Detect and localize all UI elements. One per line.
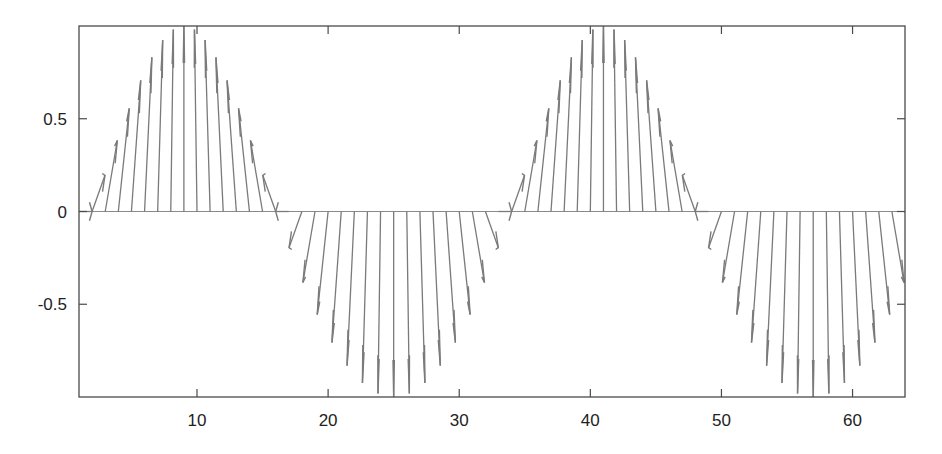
feather-arrow [183,26,184,212]
x-tick-label: 60 [843,411,862,430]
y-tick-label: -0.5 [38,295,67,314]
x-tick-label: 20 [319,411,338,430]
x-tick-label: 10 [188,411,207,430]
x-tick-label: 40 [581,411,600,430]
x-tick-label: 50 [712,411,731,430]
feather-arrow [393,212,394,398]
y-tick-label: 0 [58,203,67,222]
chart-background [0,0,942,454]
feather-arrow [813,212,814,398]
x-tick-label: 30 [450,411,469,430]
y-tick-label: 0.5 [43,110,67,129]
feather-arrow [603,26,604,212]
feather-chart: 102030405060 0.50-0.5 [0,0,942,454]
